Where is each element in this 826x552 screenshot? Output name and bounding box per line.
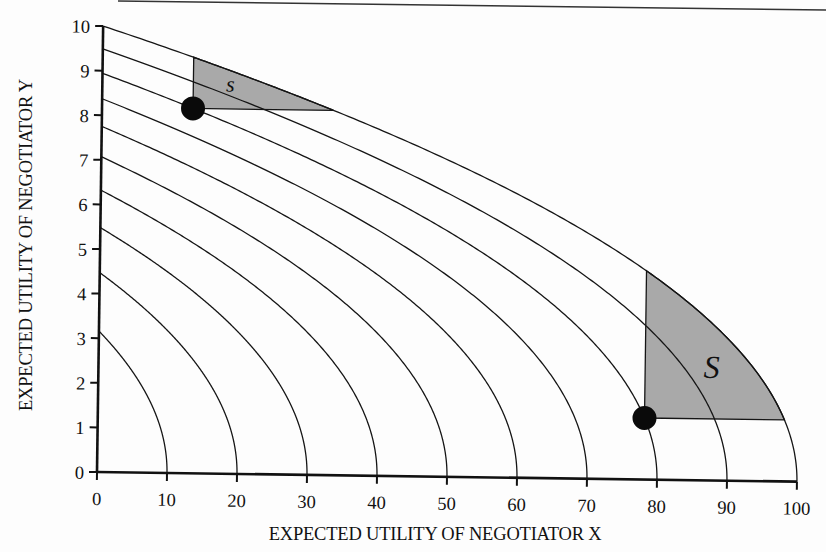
- curve-50-line: [97, 157, 451, 477]
- plot-area: 0102030405060708090100012345678910 sS: [65, 17, 817, 519]
- curve-70-line: [97, 99, 592, 479]
- x-tick-label: 70: [577, 496, 596, 516]
- chart-canvas: 0102030405060708090100012345678910 sS: [0, 0, 826, 552]
- y-tick-label: 7: [79, 151, 89, 171]
- y-tick-label: 9: [80, 61, 90, 81]
- y-axis-title: EXPECTED UTILITY OF NEGOTIATOR Y: [16, 79, 37, 411]
- region-label-big-S: S: [703, 349, 719, 385]
- y-tick-label: 8: [80, 106, 90, 126]
- y-tick-label: 4: [77, 284, 87, 304]
- y-tick-label: 10: [72, 17, 91, 37]
- x-tick-label: 40: [367, 493, 386, 513]
- x-tick-label: 30: [297, 492, 316, 512]
- x-tick-label: 90: [717, 498, 736, 518]
- page-edge-line: [118, 1, 826, 10]
- y-tick-label: 1: [75, 418, 85, 438]
- y-tick-label: 5: [78, 240, 88, 260]
- y-tick-label: 2: [76, 374, 86, 394]
- shaded-regions: [189, 57, 790, 420]
- y-tick-label: 0: [75, 463, 85, 483]
- x-tick-label: 10: [157, 490, 176, 510]
- curve-60-line: [97, 126, 522, 477]
- curve-30-line: [97, 228, 310, 475]
- x-tick-label: 100: [783, 498, 811, 518]
- x-tick-label: 80: [647, 497, 666, 517]
- x-tick-label: 60: [507, 495, 526, 515]
- axes: 0102030405060708090100012345678910: [65, 17, 817, 519]
- curve-10-line: [97, 331, 169, 473]
- y-tick-label: 6: [78, 195, 88, 215]
- curve-20-line: [97, 273, 240, 474]
- x-tick-label: 50: [437, 494, 456, 514]
- x-tick-label: 20: [227, 491, 246, 511]
- region-label-small-s: s: [226, 72, 235, 97]
- x-axis-title: EXPECTED UTILITY OF NEGOTIATOR X: [269, 524, 602, 545]
- y-tick-label: 3: [76, 329, 86, 349]
- x-tick-label: 0: [92, 489, 102, 509]
